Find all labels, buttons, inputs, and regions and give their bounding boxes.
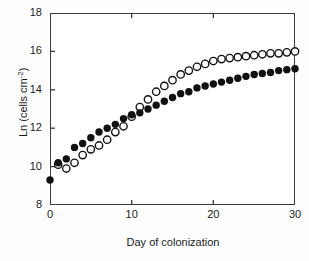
x-tick-label: 20 bbox=[196, 209, 230, 220]
x-tick-label: 0 bbox=[33, 209, 67, 220]
x-axis-title: Day of colonization bbox=[50, 237, 296, 248]
plot-area bbox=[50, 13, 295, 205]
y-tick-label: 18 bbox=[8, 7, 42, 18]
y-axis-title-exponent: -2 bbox=[16, 71, 25, 78]
y-tick-label: 12 bbox=[8, 122, 42, 133]
y-tick-label: 10 bbox=[8, 161, 42, 172]
x-tick-label: 30 bbox=[278, 209, 309, 220]
y-tick-label: 16 bbox=[8, 45, 42, 56]
x-tick-label: 10 bbox=[115, 209, 149, 220]
y-tick-label: 14 bbox=[8, 84, 42, 95]
y-axis-title-tail: ) bbox=[17, 68, 29, 72]
figure-panel: Ln (cells cm-2) 81012141618 0102030 Day … bbox=[0, 0, 309, 261]
